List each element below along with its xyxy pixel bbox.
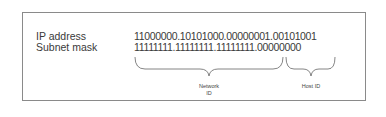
braces-graphic xyxy=(0,0,386,117)
host-id-brace-icon xyxy=(286,57,335,76)
network-id-brace-icon xyxy=(135,57,283,76)
network-id-label-line2: ID xyxy=(189,90,229,96)
host-id-label: Host ID xyxy=(291,83,331,89)
network-id-label-line1: Network xyxy=(189,83,229,89)
